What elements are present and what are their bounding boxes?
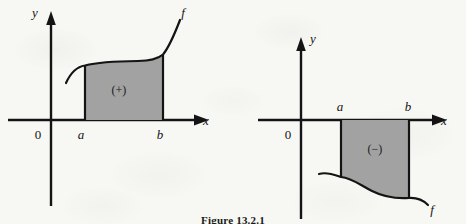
left-y-axis-arrow <box>46 11 56 25</box>
figure-container: y x 0 a b f (+) <box>0 0 466 224</box>
right-shaded-region <box>341 120 409 198</box>
right-bound-b-label: b <box>405 99 412 114</box>
left-function-label: f <box>181 5 187 20</box>
right-origin-label: 0 <box>285 127 292 142</box>
left-x-axis-label: x <box>202 113 209 128</box>
left-sign-label: (+) <box>112 83 127 97</box>
right-y-axis <box>296 37 306 219</box>
left-y-axis <box>46 11 56 206</box>
left-origin-label: 0 <box>35 127 42 142</box>
figure-caption: Figure 13.2.1 <box>0 214 466 224</box>
left-bound-b-label: b <box>157 127 164 142</box>
right-bound-a-label: a <box>337 99 344 114</box>
right-sign-label: (−) <box>368 142 383 156</box>
left-bound-a-label: a <box>78 127 85 142</box>
left-y-axis-label: y <box>30 5 38 20</box>
right-y-axis-arrow <box>296 37 306 51</box>
right-y-axis-label: y <box>308 31 316 46</box>
right-x-axis-label: x <box>440 113 447 128</box>
right-panel: y x 0 a b f (−) <box>258 31 447 219</box>
figure-graphics: y x 0 a b f (+) <box>0 0 466 224</box>
left-panel: y x 0 a b f (+) <box>8 5 209 206</box>
